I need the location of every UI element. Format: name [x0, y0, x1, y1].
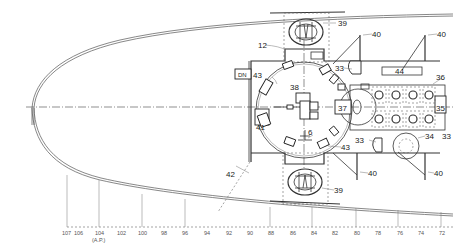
label-37: 37	[338, 104, 347, 113]
label-42: 42	[226, 170, 235, 179]
label-36: 36	[436, 73, 445, 82]
tick-86: 86	[290, 230, 296, 236]
hull-outline	[32, 12, 453, 216]
tick-92: 92	[226, 230, 232, 236]
label-40-c: 40	[368, 169, 377, 178]
label-40-d: 40	[434, 169, 443, 178]
label-41: 41	[256, 123, 265, 132]
tick-76: 76	[397, 230, 403, 236]
label-12: 12	[258, 41, 267, 50]
unit-34	[393, 133, 419, 159]
label-33-bottom: 33	[355, 136, 364, 145]
unit-33-bottom	[373, 138, 382, 152]
label-38: 38	[290, 83, 299, 92]
label-33-top: 33	[335, 64, 344, 73]
tick-78: 78	[375, 230, 381, 236]
deck-plan-drawing: 39 12 40 40 DN 43 33 44 36 38 37 35 41 6…	[0, 0, 453, 249]
label-43-left: 43	[253, 71, 262, 80]
unit-33-top	[348, 61, 361, 74]
label-33-right: 33	[442, 132, 451, 141]
tick-90: 90	[247, 230, 253, 236]
tick-100: 100	[138, 230, 147, 236]
label-dn: DN	[238, 72, 247, 78]
label-6: 6	[308, 128, 313, 137]
ap-note: (A.P.)	[92, 237, 106, 243]
label-39-top: 39	[338, 19, 347, 28]
label-40-b: 40	[437, 30, 446, 39]
tick-82: 82	[332, 230, 338, 236]
tick-74: 74	[418, 230, 424, 236]
tick-107: 107	[62, 230, 71, 236]
tick-88: 88	[268, 230, 274, 236]
tick-106: 106	[74, 230, 83, 236]
tick-72: 72	[439, 230, 445, 236]
tick-96: 96	[182, 230, 188, 236]
tick-80: 80	[354, 230, 360, 236]
tick-94: 94	[204, 230, 210, 236]
frame-scale: 107 106 104 102 100 98 96 94 92 90 88 86…	[62, 175, 453, 243]
light-bay-bottom	[283, 153, 328, 204]
tick-84: 84	[311, 230, 317, 236]
label-35: 35	[436, 104, 445, 113]
tick-104: 104	[95, 230, 104, 236]
tick-102: 102	[117, 230, 126, 236]
label-39-bottom: 39	[334, 186, 343, 195]
label-34: 34	[425, 132, 434, 141]
label-44: 44	[395, 67, 404, 76]
label-40-a: 40	[372, 30, 381, 39]
tick-98: 98	[161, 230, 167, 236]
label-43-bottom: 43	[341, 143, 350, 152]
